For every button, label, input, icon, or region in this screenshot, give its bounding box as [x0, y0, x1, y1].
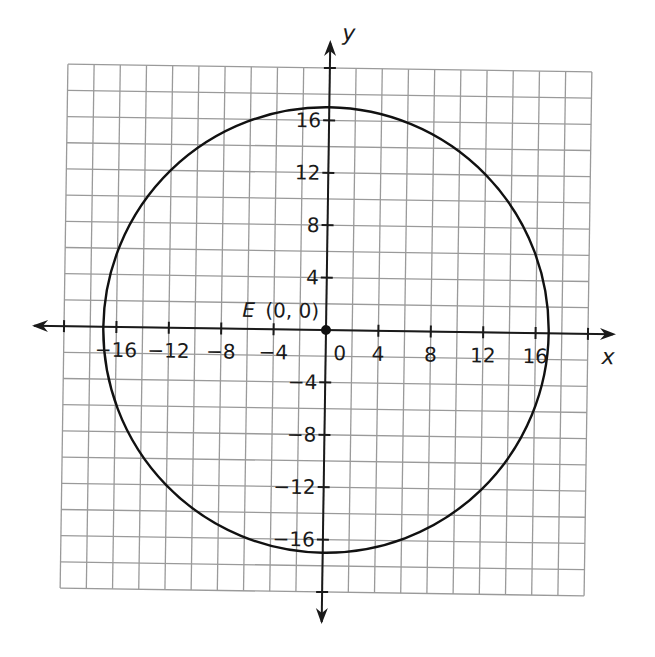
plot-content: −16−12−8−40481216−16−12−8−4481216 x y E …: [28, 16, 621, 629]
y-tick-label: −12: [273, 474, 316, 499]
x-tick-label: −8: [206, 339, 236, 363]
x-tick-label: 16: [522, 344, 548, 368]
y-tick-label: −16: [272, 527, 315, 552]
point-e-coords: (0, 0): [265, 298, 319, 323]
y-tick-label: 8: [307, 213, 320, 237]
x-tick-label: 0: [333, 341, 346, 365]
y-tick-label: 4: [306, 265, 319, 289]
x-tick-label: 4: [372, 342, 385, 366]
x-tick-label: 8: [424, 342, 437, 366]
y-axis-label: y: [341, 20, 356, 45]
y-tick-label: −8: [287, 422, 317, 446]
points: [321, 325, 331, 335]
point-e-label: E (0, 0): [242, 298, 319, 323]
y-tick-label: 16: [295, 108, 321, 132]
x-tick-label: −12: [147, 338, 190, 363]
point-e-name: E: [242, 298, 255, 322]
x-axis-label: x: [600, 344, 615, 369]
coordinate-plane-figure: −16−12−8−40481216−16−12−8−4481216 x y E …: [0, 0, 655, 657]
x-tick-label: 12: [470, 343, 496, 367]
point-e-dot: [321, 325, 331, 335]
y-tick-label: 12: [295, 160, 321, 184]
y-tick-label: −4: [288, 370, 318, 394]
coordinate-plane: −16−12−8−40481216−16−12−8−4481216 x y E …: [0, 0, 655, 657]
x-tick-label: −16: [95, 338, 138, 363]
x-tick-label: −4: [258, 340, 288, 364]
